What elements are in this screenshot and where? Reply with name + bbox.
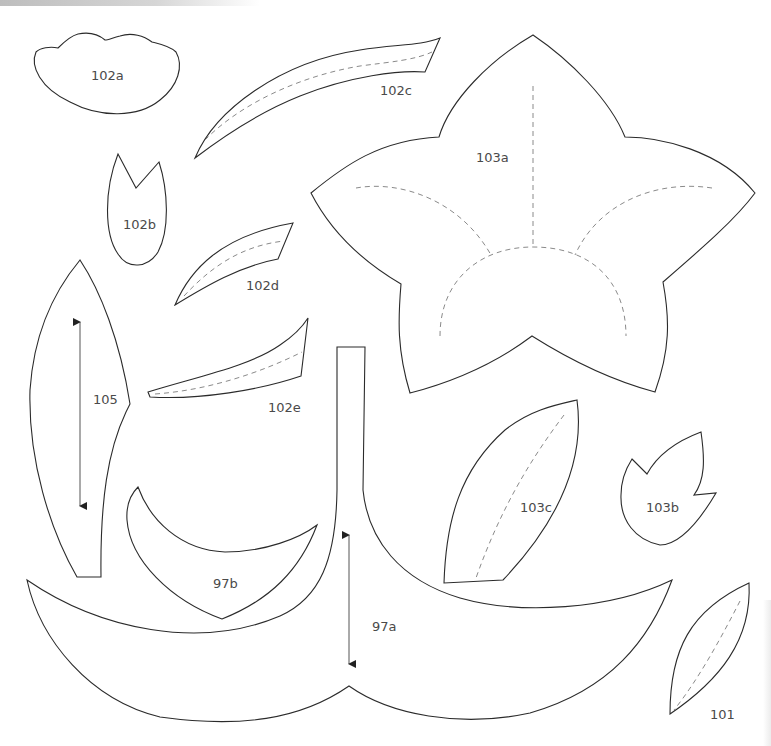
piece-101: 101 (670, 583, 749, 722)
piece-102a: 102a (34, 33, 179, 114)
label-97a: 97a (372, 619, 397, 634)
label-103b: 103b (646, 500, 679, 515)
piece-103b: 103b (621, 432, 716, 545)
label-102d: 102d (246, 278, 279, 293)
template-sheet: 102a 102c 102b 102d 102e 105 103a (0, 0, 771, 746)
label-101: 101 (710, 707, 735, 722)
label-102c: 102c (380, 83, 412, 98)
piece-97b: 97b (127, 487, 317, 619)
piece-103c: 103c (444, 400, 578, 583)
label-102a: 102a (91, 68, 124, 83)
piece-103a: 103a (311, 35, 755, 393)
piece-102d: 102d (175, 223, 293, 305)
label-105: 105 (93, 392, 118, 407)
piece-102b: 102b (108, 154, 167, 265)
label-102b: 102b (123, 217, 156, 232)
label-102e: 102e (268, 400, 301, 415)
label-97b: 97b (213, 576, 238, 591)
label-103c: 103c (520, 500, 552, 515)
piece-105: 105 (30, 260, 130, 577)
piece-102e: 102e (148, 318, 308, 415)
label-103a: 103a (476, 150, 509, 165)
piece-102c: 102c (195, 38, 440, 158)
